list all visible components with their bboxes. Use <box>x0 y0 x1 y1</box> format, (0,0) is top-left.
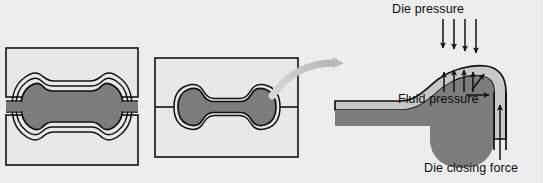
panel-open-die <box>6 48 138 165</box>
label-die-pressure: Die pressure <box>392 2 464 16</box>
workpiece-open-die <box>21 83 123 129</box>
label-die-closing-force: Die closing force <box>424 161 518 175</box>
panel-closed-die <box>155 58 298 157</box>
label-fluid-pressure: Fluid pressure <box>398 92 479 106</box>
workpiece-detail <box>335 76 494 168</box>
tube-stub-right-fill <box>122 102 138 112</box>
die-pressure-arrows <box>443 19 476 53</box>
figure-canvas: Die pressure Fluid pressure Die closing … <box>0 0 543 183</box>
tube-stub-left-fill <box>6 102 22 112</box>
